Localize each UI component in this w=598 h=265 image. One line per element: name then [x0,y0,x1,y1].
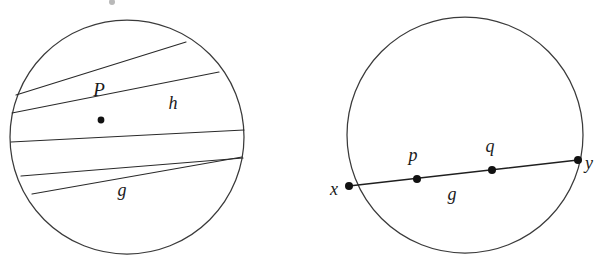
label-point-p: p [407,145,418,165]
label-line-h: h [169,93,178,113]
left-chord-3-h [11,130,244,142]
scan-speck-artifact [109,0,115,5]
label-line-g-right: g [448,184,457,204]
left-chord-4 [21,158,243,176]
label-point-x: x [329,179,338,199]
point-p-dot [98,117,105,124]
left-circle-outline [10,20,244,254]
label-point-y: y [583,153,593,173]
point-q-dot [488,166,496,174]
left-chord-2 [12,72,219,113]
diagram-canvas: P h g x p q y g [0,0,598,265]
right-chord-g [349,160,578,186]
left-chord-5-g [32,157,242,194]
left-diagram-group: P h g [10,20,244,254]
geometry-figure: P h g x p q y g [0,0,598,265]
point-x-dot [345,182,353,190]
point-y-dot [574,156,582,164]
label-line-g-left: g [118,180,127,200]
point-p-dot-right [413,175,421,183]
label-point-q: q [486,136,495,156]
right-circle-outline [347,17,583,253]
right-diagram-group: x p q y g [329,17,593,253]
label-point-P: P [92,79,105,100]
